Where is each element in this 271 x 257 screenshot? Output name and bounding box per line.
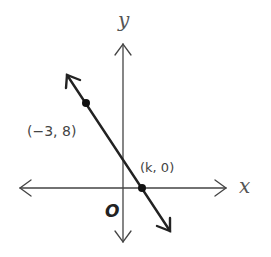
point-neg3-8 [82,99,90,107]
x-axis-label: x [239,174,250,198]
origin-label: O [105,201,119,221]
coordinate-plane: y x O (−3, 8) (k, 0) [0,0,271,257]
point-label-k-0: (k, 0) [140,160,174,175]
point-k-0 [138,184,146,192]
y-axis-label: y [117,8,130,32]
point-label-neg3-8: (−3, 8) [27,123,76,139]
